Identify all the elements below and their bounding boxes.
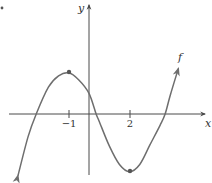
- curve-f: [18, 69, 178, 176]
- function-label: f: [177, 51, 184, 64]
- function-graph: y x f −1 2: [0, 0, 212, 183]
- local-min-point: [128, 169, 132, 173]
- y-axis-label: y: [77, 2, 85, 15]
- x-tick-label-2: 2: [127, 118, 133, 129]
- x-tick-label-neg1: −1: [62, 118, 77, 129]
- bullet-dot: [1, 7, 4, 10]
- local-max-point: [67, 70, 71, 74]
- x-axis-label: x: [205, 117, 212, 130]
